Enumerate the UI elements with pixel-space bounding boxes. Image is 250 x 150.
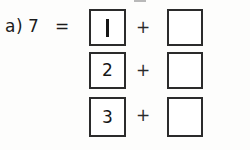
addend-box-left[interactable]: 2	[89, 52, 126, 89]
addend-box-left[interactable]: 1	[89, 9, 126, 46]
addend-box-right[interactable]	[167, 52, 203, 89]
plus-icon: +	[136, 18, 150, 36]
equation-row: 3 +	[0, 97, 250, 135]
addend-box-left[interactable]: 3	[89, 97, 126, 137]
equation-row: 1 +	[0, 9, 250, 47]
cropped-rule-artifact	[134, 0, 146, 2]
plus-icon: +	[136, 106, 150, 124]
equation-row: 2 +	[0, 52, 250, 90]
plus-icon: +	[136, 61, 150, 79]
addend-value-left: 3	[102, 109, 113, 126]
worksheet-canvas: a)7 = 1 + 2 + 3 +	[0, 0, 250, 150]
addend-value-left: 1	[106, 19, 109, 37]
addend-box-right[interactable]	[167, 9, 203, 46]
addend-value-left: 2	[102, 62, 113, 79]
addend-box-right[interactable]	[167, 97, 203, 137]
